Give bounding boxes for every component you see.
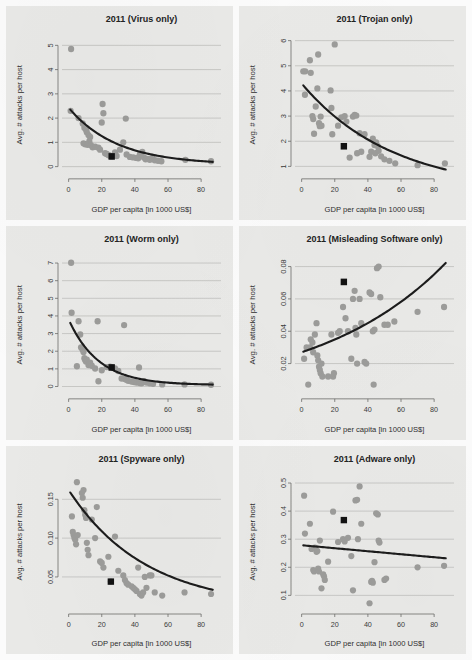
x-tick-label: 60	[164, 405, 172, 414]
x-tick-label: 0	[67, 185, 71, 194]
panel-title: 2011 (Misleading Software only)	[307, 234, 443, 244]
data-point	[305, 381, 311, 387]
data-point	[148, 572, 154, 578]
scatter-points	[301, 483, 447, 606]
y-tick-label: 0.3	[280, 534, 289, 544]
data-point	[356, 296, 362, 302]
data-point	[312, 331, 318, 337]
data-point	[348, 553, 354, 559]
data-point	[330, 509, 336, 515]
y-tick-label: 4	[47, 314, 56, 318]
y-tick-label: 0.08	[280, 259, 289, 273]
y-tick-label: 5	[47, 43, 56, 47]
data-point	[74, 479, 80, 485]
x-tick-label: 20	[98, 185, 106, 194]
data-point	[314, 548, 320, 554]
data-point	[92, 535, 98, 541]
data-point	[75, 532, 81, 538]
mean-marker	[108, 578, 114, 584]
mean-marker	[341, 517, 347, 523]
data-point	[99, 101, 105, 107]
scatter-plot-svg: 2011 (Worm only)01234567020406080GDP per…	[6, 226, 233, 440]
data-point	[350, 296, 356, 302]
data-point	[123, 115, 129, 121]
data-point	[385, 322, 391, 328]
y-axis-label: Avg. # attacks per host	[248, 503, 257, 581]
data-point	[315, 51, 321, 57]
y-tick-label: 6	[47, 279, 56, 283]
data-point	[84, 540, 90, 546]
scatter-plot-svg: 2011 (Virus only)012345020406080GDP per …	[6, 6, 233, 220]
y-tick-label: 2	[47, 349, 56, 353]
data-point	[441, 563, 447, 569]
data-point	[80, 349, 86, 355]
data-point	[371, 326, 377, 332]
panel-title: 2011 (Worm only)	[104, 234, 178, 244]
data-point	[94, 504, 100, 510]
data-point	[100, 110, 106, 116]
x-axis-label: GDP per capita [in 1000 US$]	[325, 425, 425, 434]
data-point	[342, 315, 348, 321]
y-tick-label: 0.15	[47, 492, 56, 506]
y-tick-label: 0.02	[280, 356, 289, 370]
x-tick-label: 80	[430, 185, 438, 194]
data-point	[311, 131, 317, 137]
data-point	[391, 318, 397, 324]
data-point	[75, 318, 81, 324]
chart-panel-4: 2011 (Spyware only)0.050.100.15020406080…	[6, 446, 233, 654]
y-tick-label: 1	[280, 164, 289, 168]
data-point	[307, 57, 313, 63]
data-point	[328, 87, 334, 93]
fit-curve	[303, 545, 445, 558]
y-tick-label: 3	[280, 114, 289, 118]
mean-marker	[108, 153, 114, 160]
data-point	[85, 547, 91, 553]
x-axis-label: GDP per capita [in 1000 US$]	[325, 639, 425, 648]
data-point	[80, 487, 86, 493]
data-point	[302, 530, 308, 536]
data-point	[337, 328, 343, 334]
scatter-plot-svg: 2011 (Misleading Software only)0.020.040…	[239, 226, 466, 440]
data-point	[352, 288, 358, 294]
scatter-points	[69, 479, 214, 599]
y-axis-label: Avg. # attacks per host	[15, 64, 24, 144]
data-point	[332, 41, 338, 47]
x-tick-label: 0	[67, 405, 71, 414]
data-point	[376, 263, 382, 269]
x-tick-label: 20	[98, 620, 106, 629]
x-tick-label: 60	[164, 185, 172, 194]
y-tick-label: 0.10	[47, 531, 56, 545]
y-axis-label: Avg. # attacks per host	[15, 503, 24, 581]
y-tick-label: 2	[280, 139, 289, 143]
data-point	[318, 113, 324, 119]
data-point	[92, 365, 98, 371]
y-tick-label: 0	[47, 384, 56, 388]
data-point	[371, 559, 377, 565]
y-tick-label: 3	[47, 332, 56, 336]
data-point	[345, 535, 351, 541]
data-point	[208, 591, 214, 597]
x-tick-label: 20	[331, 185, 339, 194]
data-point	[358, 149, 364, 155]
data-point	[375, 511, 381, 517]
data-point	[329, 131, 335, 137]
data-point	[159, 592, 165, 598]
data-point	[121, 322, 127, 328]
y-tick-label: 5	[280, 64, 289, 68]
x-tick-label: 60	[397, 185, 405, 194]
scatter-points	[68, 46, 215, 165]
y-tick-label: 1	[47, 367, 56, 371]
panel-title: 2011 (Trojan only)	[337, 14, 413, 24]
x-tick-label: 80	[430, 405, 438, 414]
data-point	[328, 331, 334, 337]
y-tick-label: 0.04	[280, 324, 289, 338]
data-point	[370, 580, 376, 586]
x-tick-label: 80	[197, 405, 205, 414]
y-tick-label: 2	[47, 116, 56, 120]
data-point	[318, 122, 324, 128]
data-point	[112, 533, 118, 539]
data-point	[348, 356, 354, 362]
x-tick-label: 0	[300, 620, 304, 629]
panel-title: 2011 (Spyware only)	[98, 454, 184, 464]
data-point	[309, 339, 315, 345]
